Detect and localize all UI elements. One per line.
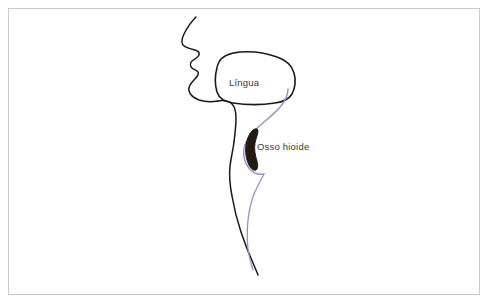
pharynx-upper-path (252, 89, 288, 134)
jaw-to-neck-path (218, 101, 236, 142)
face-profile-path (182, 17, 218, 102)
label-osso-hioide: Osso hioide (257, 141, 309, 152)
anatomical-diagram (0, 0, 490, 305)
screenshot-root: Língua Osso hioide (0, 0, 490, 305)
label-lingua: Língua (229, 77, 259, 88)
